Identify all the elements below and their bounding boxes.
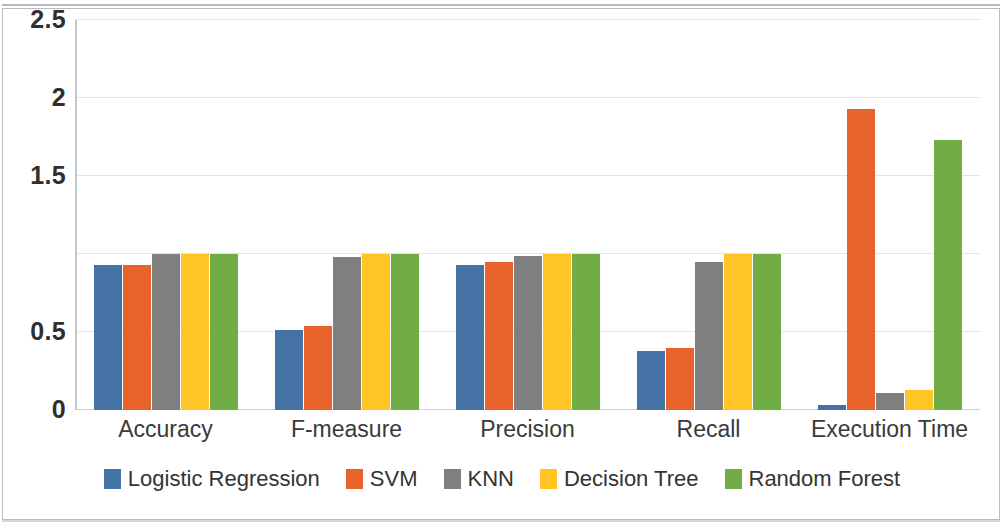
legend-swatch-icon: [725, 469, 742, 489]
bar[interactable]: [123, 265, 151, 410]
x-axis-category-label: Recall: [618, 418, 799, 441]
legend-item[interactable]: Random Forest: [725, 468, 901, 490]
legend-label: SVM: [370, 468, 418, 490]
page-frame-bottom-edge: [2, 520, 1000, 522]
legend-label: Random Forest: [749, 468, 901, 490]
y-axis-tick-label: 2.5: [14, 7, 66, 32]
chart-figure: 2.521.50.50 AccuracyF-measurePrecisionRe…: [0, 0, 1004, 528]
bar[interactable]: [333, 257, 361, 410]
x-axis-category-label: F-measure: [256, 418, 437, 441]
bar[interactable]: [456, 265, 484, 410]
bar[interactable]: [818, 405, 846, 410]
y-axis-tick-label: 2: [14, 85, 66, 110]
legend-label: Decision Tree: [564, 468, 699, 490]
bar[interactable]: [847, 109, 875, 410]
legend-item[interactable]: Logistic Regression: [104, 468, 320, 490]
bar-group: [799, 20, 980, 410]
page-frame-top-edge: [2, 4, 1000, 6]
bar-group: [75, 20, 256, 410]
bar[interactable]: [753, 254, 781, 410]
y-axis-tick-label: 1.5: [14, 163, 66, 188]
legend-swatch-icon: [540, 469, 557, 489]
bar[interactable]: [304, 326, 332, 410]
bar[interactable]: [485, 262, 513, 410]
bar[interactable]: [94, 265, 122, 410]
bar[interactable]: [666, 348, 694, 410]
legend-item[interactable]: KNN: [444, 468, 514, 490]
bar-group: [618, 20, 799, 410]
bar[interactable]: [210, 254, 238, 410]
x-axis-category-label: Execution Time: [799, 418, 980, 441]
legend-swatch-icon: [104, 469, 121, 489]
y-axis-tick-label: 0.5: [14, 319, 66, 344]
x-axis-category-label: Precision: [437, 418, 618, 441]
legend-swatch-icon: [346, 469, 363, 489]
legend-label: Logistic Regression: [128, 468, 320, 490]
bar[interactable]: [275, 330, 303, 410]
chart-legend: Logistic RegressionSVMKNNDecision TreeRa…: [0, 468, 1004, 490]
legend-item[interactable]: Decision Tree: [540, 468, 699, 490]
x-axis-category-label: Accuracy: [75, 418, 256, 441]
bar[interactable]: [572, 254, 600, 410]
bar[interactable]: [934, 140, 962, 410]
bar[interactable]: [181, 254, 209, 410]
legend-item[interactable]: SVM: [346, 468, 418, 490]
bar[interactable]: [514, 256, 542, 410]
bar[interactable]: [362, 254, 390, 410]
y-axis-tick-label: 0: [14, 397, 66, 422]
bar-group: [256, 20, 437, 410]
bar[interactable]: [905, 390, 933, 410]
legend-swatch-icon: [444, 469, 461, 489]
bar-group: [437, 20, 618, 410]
bar[interactable]: [152, 254, 180, 410]
bar[interactable]: [724, 254, 752, 410]
plot-area: [75, 20, 980, 410]
bar[interactable]: [637, 351, 665, 410]
bar[interactable]: [876, 393, 904, 410]
legend-label: KNN: [468, 468, 514, 490]
bar[interactable]: [543, 254, 571, 410]
bar[interactable]: [695, 262, 723, 410]
bar[interactable]: [391, 254, 419, 410]
